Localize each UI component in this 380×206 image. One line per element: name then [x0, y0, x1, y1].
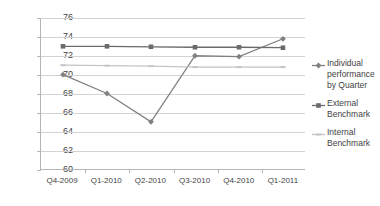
data-point-marker [237, 45, 242, 50]
data-point-marker [61, 44, 66, 49]
x-axis-tick [262, 169, 263, 173]
data-point-marker [280, 66, 285, 68]
data-point-marker [236, 54, 242, 60]
x-axis-tick-label: Q3-2010 [179, 176, 210, 185]
x-axis-tick [85, 169, 86, 173]
data-point-marker [60, 72, 66, 78]
data-point-marker [60, 64, 65, 66]
data-point-marker [281, 45, 286, 50]
data-point-marker [280, 36, 286, 42]
chart-legend: Individual performance by QuarterExterna… [312, 58, 380, 156]
series-group [60, 36, 286, 125]
x-axis-tick-label: Q2-2010 [135, 176, 166, 185]
series-group [60, 64, 285, 68]
legend-entry[interactable]: Internal Benchmark [312, 127, 380, 149]
plot-area [40, 18, 305, 170]
legend-marker-icon [312, 102, 325, 109]
legend-label: Individual performance by Quarter [327, 58, 375, 90]
legend-marker-icon [312, 62, 325, 69]
x-axis-tick-label: Q4-2009 [47, 176, 78, 185]
data-point-marker [148, 65, 153, 67]
data-point-marker [193, 45, 198, 50]
data-point-marker [149, 44, 154, 49]
series-lines [41, 18, 305, 169]
x-axis-tick-label: Q1-2011 [268, 176, 299, 185]
x-axis-tick-label: Q4-2010 [223, 176, 254, 185]
x-axis-tick [129, 169, 130, 173]
line-chart: 606264666870727476 Q4-2009Q1-2010Q2-2010… [0, 0, 380, 206]
legend-label: External Benchmark [327, 98, 370, 119]
series-line [63, 65, 283, 67]
series-line [63, 46, 283, 47]
legend-marker-icon [312, 131, 325, 138]
legend-label: Internal Benchmark [327, 127, 370, 148]
x-axis-tick [174, 169, 175, 173]
x-axis-tick [218, 169, 219, 173]
legend-entry[interactable]: Individual performance by Quarter [312, 58, 380, 91]
series-group [61, 44, 286, 50]
data-point-marker [104, 65, 109, 67]
legend-entry[interactable]: External Benchmark [312, 98, 380, 120]
data-point-marker [192, 66, 197, 68]
data-point-marker [236, 66, 241, 68]
x-axis-tick-label: Q1-2010 [91, 176, 122, 185]
series-line [63, 39, 283, 122]
data-point-marker [105, 44, 110, 49]
y-axis-tick [37, 170, 41, 171]
